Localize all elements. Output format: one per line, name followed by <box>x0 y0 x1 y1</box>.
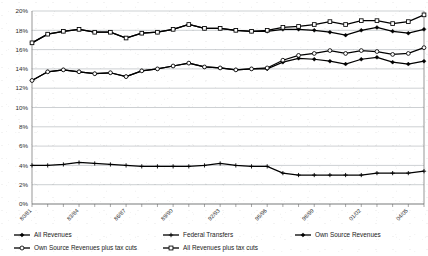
data-point-marker <box>297 53 301 57</box>
data-point-marker <box>250 29 254 33</box>
x-axis-tick-label: 01/02 <box>348 207 362 221</box>
data-point-marker <box>77 27 81 31</box>
data-point-marker <box>140 31 144 35</box>
data-point-marker <box>281 26 285 30</box>
data-point-marker <box>391 53 395 57</box>
data-point-marker <box>375 19 379 23</box>
data-point-marker <box>171 64 175 68</box>
legend-item-own-source-revenues[interactable]: Own Source Revenues <box>295 231 381 238</box>
data-point-marker <box>30 41 34 45</box>
data-point-marker <box>375 25 379 29</box>
data-point-marker <box>406 31 410 35</box>
y-axis-tick-label: 2% <box>19 181 28 188</box>
x-axis-labels: 80/8183/8486/8789/9092/9395/9698/9901/02… <box>19 207 409 221</box>
data-point-marker <box>328 59 332 63</box>
data-series <box>30 13 426 177</box>
data-point-marker <box>359 28 363 32</box>
data-point-marker <box>359 19 363 23</box>
data-point-marker <box>234 28 238 32</box>
data-point-marker <box>422 13 426 17</box>
data-point-marker <box>312 23 316 27</box>
data-point-marker <box>312 28 316 32</box>
data-point-marker <box>46 32 50 36</box>
data-point-marker <box>391 29 395 33</box>
legend-label: All Revenues <box>34 231 72 238</box>
data-point-marker <box>265 28 269 32</box>
data-point-marker <box>250 67 254 71</box>
data-point-marker <box>328 20 332 24</box>
data-point-marker <box>20 233 24 237</box>
data-point-marker <box>406 52 410 56</box>
chart-container: 0%2%4%6%8%10%12%14%16%18%20% 80/8183/848… <box>0 0 428 256</box>
series-line <box>32 163 424 176</box>
chart-legend: All RevenuesFederal TransfersOwn Source … <box>14 231 381 252</box>
data-point-marker <box>406 20 410 24</box>
y-axis-tick-label: 16% <box>16 46 29 53</box>
data-point-marker <box>156 67 160 71</box>
data-point-marker <box>265 66 269 70</box>
data-point-marker <box>344 62 348 66</box>
data-point-marker <box>218 27 222 31</box>
series-all-revenues <box>30 23 426 45</box>
legend-item-federal-transfers[interactable]: Federal Transfers <box>163 231 233 238</box>
data-point-marker <box>344 52 348 56</box>
data-point-marker <box>391 22 395 26</box>
legend-item-all-revenues[interactable]: All Revenues <box>14 231 72 238</box>
data-point-marker <box>297 25 301 29</box>
y-axis-tick-label: 12% <box>16 84 29 91</box>
x-axis-tick-label: 89/90 <box>160 207 174 221</box>
y-axis-tick-label: 4% <box>19 162 28 169</box>
x-axis-tick-label: 04/05 <box>395 207 409 221</box>
data-point-marker <box>203 27 207 31</box>
x-axis-tick-label: 86/87 <box>113 207 127 221</box>
data-point-marker <box>312 52 316 56</box>
legend-item-own-source-revenues-plus-tax-cuts[interactable]: Own Source Revenues plus tax cuts <box>14 244 137 252</box>
data-point-marker <box>359 57 363 61</box>
data-point-marker <box>406 62 410 66</box>
series-federal-transfers <box>30 160 426 177</box>
data-point-marker <box>375 55 379 59</box>
x-axis-tick-label: 92/93 <box>207 207 221 221</box>
data-point-marker <box>218 66 222 70</box>
legend-item-all-revenues-plus-tax-cuts[interactable]: All Revenues plus tax cuts <box>163 244 258 252</box>
data-point-marker <box>109 71 113 75</box>
legend-label: Federal Transfers <box>183 231 233 238</box>
y-axis-tick-label: 0% <box>19 200 28 207</box>
data-point-marker <box>93 30 97 34</box>
data-point-marker <box>344 33 348 37</box>
y-axis-tick-label: 10% <box>16 104 29 111</box>
data-point-marker <box>234 68 238 72</box>
x-axis-ticks <box>32 204 424 207</box>
x-axis-tick-label: 83/84 <box>66 207 80 221</box>
data-point-marker <box>61 68 65 72</box>
data-point-marker <box>187 23 191 27</box>
data-point-marker <box>328 30 332 34</box>
data-point-marker <box>62 29 66 33</box>
data-point-marker <box>169 246 173 250</box>
data-point-marker <box>328 49 332 53</box>
data-point-marker <box>281 58 285 62</box>
x-axis-tick-label: 95/96 <box>254 207 268 221</box>
data-point-marker <box>77 70 81 74</box>
x-axis-tick-label: 98/99 <box>301 207 315 221</box>
data-point-marker <box>109 30 113 34</box>
data-point-marker <box>312 57 316 61</box>
data-point-marker <box>203 65 207 69</box>
x-axis-tick-label: 80/81 <box>19 207 33 221</box>
y-axis-tick-label: 6% <box>19 142 28 149</box>
legend-label: All Revenues plus tax cuts <box>183 244 258 252</box>
data-point-marker <box>20 246 24 250</box>
series-line <box>32 48 424 81</box>
data-point-marker <box>171 27 175 31</box>
data-point-marker <box>359 49 363 53</box>
series-own-source-revenues-plus-tax-cuts <box>30 46 426 83</box>
data-point-marker <box>301 233 305 237</box>
data-point-marker <box>344 23 348 27</box>
line-chart: 0%2%4%6%8%10%12%14%16%18%20% 80/8183/848… <box>0 0 428 256</box>
y-axis-labels: 0%2%4%6%8%10%12%14%16%18%20% <box>16 7 29 207</box>
data-point-marker <box>422 46 426 50</box>
legend-label: Own Source Revenues <box>315 231 381 238</box>
data-point-marker <box>187 61 191 65</box>
data-point-marker <box>422 59 426 63</box>
y-axis-tick-label: 18% <box>16 27 29 34</box>
